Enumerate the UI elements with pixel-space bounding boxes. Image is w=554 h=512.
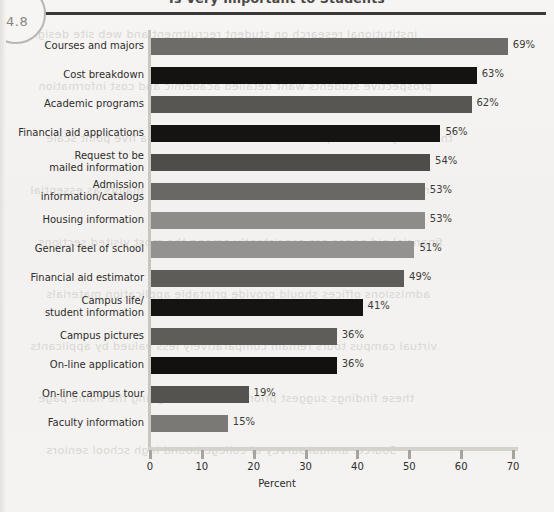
x-axis-tick-label: 60 bbox=[455, 461, 468, 472]
x-axis-tick bbox=[149, 450, 152, 459]
bar-value-label: 15% bbox=[233, 416, 255, 427]
bar-value-label: 54% bbox=[435, 155, 457, 166]
bar-row: Request to bemailed information54% bbox=[150, 148, 550, 177]
bar-row: Faculty information15% bbox=[150, 409, 550, 438]
bar-row: Academic programs62% bbox=[150, 90, 550, 119]
bar-value-label: 36% bbox=[342, 358, 364, 369]
category-label: Academic programs bbox=[4, 98, 144, 110]
bar-value-label: 51% bbox=[419, 242, 441, 253]
x-axis-tick-label: 50 bbox=[403, 461, 416, 472]
bar bbox=[150, 357, 337, 374]
bar bbox=[150, 299, 363, 316]
category-label: Faculty information bbox=[4, 417, 144, 429]
page-edge-shadow bbox=[0, 0, 6, 512]
x-axis-tick-label: 10 bbox=[195, 461, 208, 472]
bar-chart: Courses and majors69%Cost breakdown63%Ac… bbox=[0, 0, 554, 512]
bar-value-label: 36% bbox=[342, 329, 364, 340]
bar bbox=[150, 67, 477, 84]
category-label: Admissioninformation/catalogs bbox=[4, 179, 144, 202]
bar bbox=[150, 212, 425, 229]
bar-row: Housing information53% bbox=[150, 206, 550, 235]
category-label: On-line application bbox=[4, 359, 144, 371]
bar bbox=[150, 183, 425, 200]
bar-value-label: 62% bbox=[477, 97, 499, 108]
x-axis-tick-label: 70 bbox=[507, 461, 520, 472]
bar-value-label: 53% bbox=[430, 184, 452, 195]
bar-row: Cost breakdown63% bbox=[150, 61, 550, 90]
y-axis-line bbox=[148, 30, 151, 448]
bar-value-label: 69% bbox=[513, 39, 535, 50]
x-axis-label: Percent bbox=[0, 478, 554, 489]
bar bbox=[150, 38, 508, 55]
x-axis-tick bbox=[305, 450, 308, 459]
x-axis-tick-label: 30 bbox=[299, 461, 312, 472]
bar-value-label: 56% bbox=[445, 126, 467, 137]
bar bbox=[150, 386, 249, 403]
bar-value-label: 41% bbox=[368, 300, 390, 311]
category-label: Housing information bbox=[4, 214, 144, 226]
category-label: Campus pictures bbox=[4, 330, 144, 342]
x-axis-tick bbox=[408, 450, 411, 459]
bar-row: On-line campus tour19% bbox=[150, 380, 550, 409]
bar-value-label: 53% bbox=[430, 213, 452, 224]
bar bbox=[150, 241, 414, 258]
category-label: On-line campus tour bbox=[4, 388, 144, 400]
category-label: Campus life/student information bbox=[4, 295, 144, 318]
bar bbox=[150, 328, 337, 345]
plot-area: Courses and majors69%Cost breakdown63%Ac… bbox=[150, 32, 546, 446]
category-label: Financial aid estimator bbox=[4, 272, 144, 284]
bar-row: On-line application36% bbox=[150, 351, 550, 380]
bar-value-label: 19% bbox=[254, 387, 276, 398]
bar-row: Courses and majors69% bbox=[150, 32, 550, 61]
category-label: General feel of school bbox=[4, 243, 144, 255]
chart-title: Is Very Important to Students bbox=[0, 0, 554, 6]
bar bbox=[150, 96, 472, 113]
bar-value-label: 49% bbox=[409, 271, 431, 282]
x-axis-tick bbox=[201, 450, 204, 459]
x-axis-tick-label: 40 bbox=[351, 461, 364, 472]
bar-row: Campus life/student information41% bbox=[150, 293, 550, 322]
bar bbox=[150, 125, 440, 142]
x-axis-tick bbox=[356, 450, 359, 459]
bar-value-label: 63% bbox=[482, 68, 504, 79]
bar-row: General feel of school51% bbox=[150, 235, 550, 264]
bar-row: Financial aid estimator49% bbox=[150, 264, 550, 293]
title-rule bbox=[26, 12, 546, 15]
x-axis-tick bbox=[253, 450, 256, 459]
bar bbox=[150, 270, 404, 287]
bar bbox=[150, 415, 228, 432]
x-axis-tick bbox=[460, 450, 463, 459]
category-label: Request to bemailed information bbox=[4, 150, 144, 173]
bar-row: Campus pictures36% bbox=[150, 322, 550, 351]
x-axis-tick-label: 0 bbox=[147, 461, 153, 472]
figure-number: 4.8 bbox=[6, 14, 28, 29]
bar bbox=[150, 154, 430, 171]
x-axis-tick bbox=[512, 450, 515, 459]
bar-row: Financial aid applications56% bbox=[150, 119, 550, 148]
bar-row: Admissioninformation/catalogs53% bbox=[150, 177, 550, 206]
category-label: Financial aid applications bbox=[4, 127, 144, 139]
x-axis-tick-label: 20 bbox=[247, 461, 260, 472]
category-label: Cost breakdown bbox=[4, 69, 144, 81]
